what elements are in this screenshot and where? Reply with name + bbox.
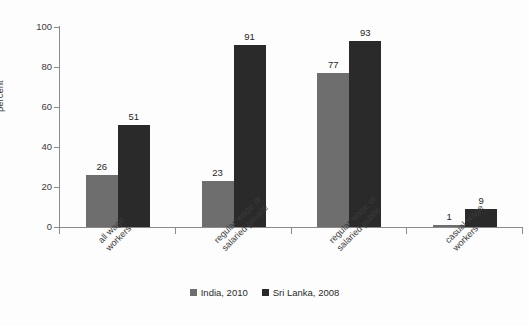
y-tick-label: 40 bbox=[8, 142, 52, 152]
x-tick-mark bbox=[291, 228, 292, 234]
y-tick-label: 60 bbox=[8, 102, 52, 112]
legend-swatch-icon bbox=[190, 289, 197, 296]
bar-chart: percent 020406080100 26512391779319 all … bbox=[0, 0, 529, 326]
bar-value-label: 9 bbox=[465, 196, 497, 206]
legend-label: Sri Lanka, 2008 bbox=[273, 288, 340, 298]
bar-value-label: 91 bbox=[234, 32, 266, 42]
bar-value-label: 93 bbox=[349, 28, 381, 38]
plot-area: 26512391779319 bbox=[60, 27, 523, 227]
y-tick-label: 100 bbox=[8, 22, 52, 32]
x-tick-mark bbox=[522, 228, 523, 234]
bar-value-label: 51 bbox=[118, 112, 150, 122]
bar bbox=[317, 73, 349, 227]
x-tick-mark bbox=[406, 228, 407, 234]
bar-value-label: 26 bbox=[86, 162, 118, 172]
y-tick-label: 20 bbox=[8, 182, 52, 192]
bar bbox=[118, 125, 150, 227]
legend-entry: India, 2010 bbox=[190, 288, 248, 298]
x-tick-mark bbox=[59, 228, 60, 234]
y-tick-label: 80 bbox=[8, 62, 52, 72]
x-tick-mark bbox=[175, 228, 176, 234]
legend-entry: Sri Lanka, 2008 bbox=[262, 288, 340, 298]
legend: India, 2010Sri Lanka, 2008 bbox=[0, 288, 529, 298]
y-tick-label: 0 bbox=[8, 222, 52, 232]
y-axis-title: percent bbox=[0, 80, 5, 112]
legend-label: India, 2010 bbox=[201, 288, 248, 298]
bar-value-label: 23 bbox=[202, 168, 234, 178]
legend-swatch-icon bbox=[262, 289, 269, 296]
bar-value-label: 77 bbox=[317, 60, 349, 70]
